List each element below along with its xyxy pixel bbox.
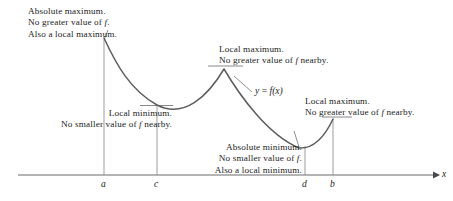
annotation-absolute-maximum-line2-prefix: No greater value of	[28, 17, 104, 27]
annotation-local-minimum-line2-suffix: nearby.	[142, 119, 172, 129]
annotation-absolute-minimum: Absolute minimum. No smaller value of f.…	[150, 142, 302, 176]
tick-label-b: b	[330, 178, 335, 189]
annotation-absolute-maximum-line2-suffix: .	[107, 17, 109, 27]
annotation-local-maximum-right-line2-suffix: nearby.	[384, 107, 414, 117]
annotation-local-maximum-right-line2-prefix: No greater value of	[305, 107, 381, 117]
function-label-fx: f(x)	[269, 85, 282, 96]
annotation-absolute-maximum-line2: No greater value of f.	[28, 17, 117, 28]
annotation-local-minimum: Local minimum. No smaller value of f nea…	[0, 108, 172, 131]
annotation-absolute-minimum-line2-prefix: No smaller value of	[219, 153, 297, 163]
annotation-local-maximum-right-line2: No greater value of f nearby.	[305, 107, 414, 118]
annotation-local-maximum-center-line2-prefix: No greater value of	[219, 55, 295, 65]
annotation-local-maximum-center-line2-suffix: nearby.	[298, 55, 328, 65]
tick-label-d: d	[302, 178, 307, 189]
annotation-absolute-minimum-line2: No smaller value of f.	[150, 153, 302, 164]
x-axis-label: x	[442, 168, 446, 179]
calculus-extrema-figure: Absolute maximum. No greater value of f.…	[0, 0, 453, 201]
tick-label-c: c	[154, 178, 158, 189]
x-axis-arrowhead	[433, 172, 440, 179]
annotation-local-maximum-center: Local maximum. No greater value of f nea…	[219, 44, 328, 67]
annotation-local-maximum-right: Local maximum. No greater value of f nea…	[305, 96, 414, 119]
annotation-local-maximum-center-line1: Local maximum.	[219, 44, 328, 55]
annotation-local-maximum-center-line2: No greater value of f nearby.	[219, 55, 328, 66]
annotation-local-minimum-line1: Local minimum.	[0, 108, 172, 119]
function-label-equals: =	[259, 85, 269, 96]
annotation-absolute-minimum-line3: Also a local minimum.	[150, 165, 302, 176]
annotation-local-maximum-right-line1: Local maximum.	[305, 96, 414, 107]
annotation-absolute-maximum-line1: Absolute maximum.	[28, 6, 117, 17]
tick-label-a: a	[101, 178, 106, 189]
function-label: y = f(x)	[255, 85, 283, 96]
annotation-absolute-maximum: Absolute maximum. No greater value of f.…	[28, 6, 117, 40]
annotation-absolute-minimum-line1: Absolute minimum.	[150, 142, 302, 153]
annotation-absolute-maximum-line3: Also a local maximum.	[28, 29, 117, 40]
annotation-local-minimum-line2: No smaller value of f nearby.	[0, 119, 172, 130]
annotation-absolute-minimum-line2-suffix: .	[300, 153, 302, 163]
annotation-local-minimum-line2-prefix: No smaller value of	[61, 119, 139, 129]
